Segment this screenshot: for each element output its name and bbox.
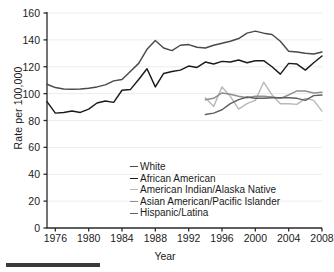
footer-bar — [6, 263, 100, 267]
legend-item: Asian American/Pacific Islander — [130, 196, 280, 208]
legend-item-label: Hispanic/Latina — [140, 207, 208, 219]
x-tick-label: 1980 — [77, 232, 100, 244]
y-tick-label: 40 — [10, 168, 40, 180]
x-tick-label: 2000 — [244, 232, 267, 244]
y-tick-label: 100 — [10, 88, 40, 100]
chart-legend: WhiteAfrican AmericanAmerican Indian/Ala… — [130, 161, 280, 219]
y-tick-label: 120 — [10, 61, 40, 73]
x-tick-label: 2008 — [310, 232, 333, 244]
x-tick-label: 1992 — [177, 232, 200, 244]
x-tick-label: 2004 — [277, 232, 300, 244]
legend-item: Hispanic/Latina — [130, 207, 280, 219]
legend-line-icon — [130, 166, 138, 167]
y-axis-label: Rate per 100,000 — [12, 38, 24, 178]
legend-line-icon — [130, 178, 138, 179]
legend-item-label: American Indian/Alaska Native — [140, 184, 276, 196]
y-tick-label: 140 — [10, 34, 40, 46]
x-tick-label: 1976 — [44, 232, 67, 244]
legend-item-label: African American — [140, 173, 216, 185]
legend-item-label: White — [140, 161, 166, 173]
legend-line-icon — [130, 189, 138, 190]
legend-item: American Indian/Alaska Native — [130, 184, 280, 196]
x-tick-label: 1988 — [144, 232, 167, 244]
y-tick-label: 0 — [10, 222, 40, 234]
x-axis-label: Year — [0, 250, 330, 262]
legend-item: African American — [130, 173, 280, 185]
legend-line-icon — [130, 201, 138, 202]
y-tick-label: 80 — [10, 115, 40, 127]
series-line — [205, 95, 322, 114]
y-tick-label: 160 — [10, 7, 40, 19]
x-tick-label: 1996 — [210, 232, 233, 244]
legend-item: White — [130, 161, 280, 173]
y-tick-label: 60 — [10, 141, 40, 153]
legend-line-icon — [130, 213, 138, 214]
y-tick-label: 20 — [10, 195, 40, 207]
x-tick-label: 1984 — [110, 232, 133, 244]
series-line — [47, 56, 322, 113]
legend-item-label: Asian American/Pacific Islander — [140, 196, 280, 208]
